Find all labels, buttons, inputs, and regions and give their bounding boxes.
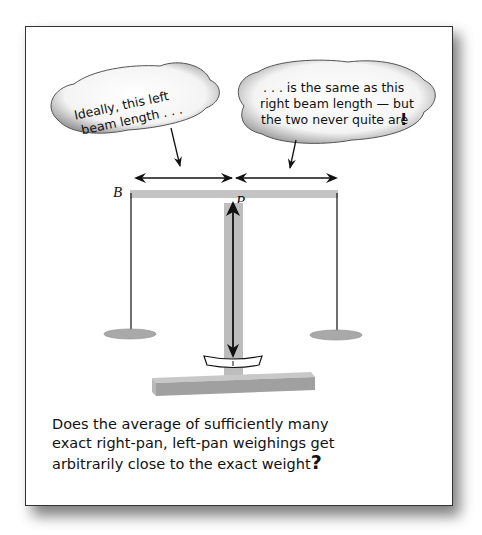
balance-beam [130, 190, 338, 198]
right-bubble-text: . . . is the same as this right beam len… [260, 80, 418, 127]
cartoon-figure: Ideally, this left beam length . . . . .… [0, 0, 482, 535]
left-pan [104, 329, 156, 339]
left-length-arrow [134, 173, 233, 183]
exclamation-mark: ! [400, 110, 407, 129]
caption-line-3-text: arbitrarily close to the exact weight [52, 456, 311, 472]
label-b: B [113, 184, 122, 200]
question-mark: ? [311, 451, 322, 473]
left-bubble-pointer [171, 128, 180, 166]
right-bubble-pointer [290, 140, 296, 168]
right-length-arrow [235, 173, 338, 183]
right-pan [310, 330, 362, 340]
balance-base [152, 372, 315, 396]
caption-line-2: exact right-pan, left-pan weighings get [52, 434, 412, 453]
question-caption: Does the average of sufficiently many ex… [52, 415, 412, 474]
caption-line-1: Does the average of sufficiently many [52, 415, 412, 434]
caption-line-3: arbitrarily close to the exact weight? [52, 453, 412, 474]
